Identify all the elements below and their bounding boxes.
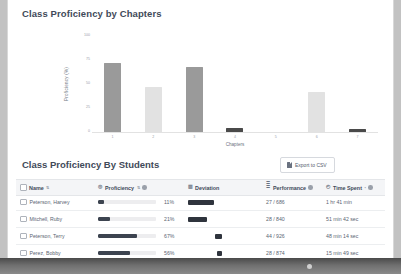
sort-arrow-icon[interactable]: • (364, 186, 365, 190)
sort-arrow-icon[interactable]: ⇅ (46, 186, 49, 190)
y-tick-label: 25 (74, 106, 90, 110)
performance-value: 44 / 926 (266, 228, 285, 244)
select-all-checkbox[interactable] (20, 184, 27, 191)
row-checkbox[interactable] (20, 199, 27, 206)
x-tick-label: 6 (296, 135, 337, 139)
student-name-label: Perez, Bobby (30, 250, 61, 256)
bar-slot (174, 36, 215, 132)
export-to-csv-button[interactable]: Export to CSV (280, 157, 335, 173)
x-axis-label: Chapters (92, 142, 378, 147)
proficiency-track (98, 234, 156, 239)
deviation-track (188, 200, 246, 205)
deviation-bar (215, 234, 222, 239)
column-header-deviation[interactable]: ▥Deviation (188, 180, 219, 195)
export-button-label: Export to CSV (295, 162, 327, 168)
proficiency-percent-label: 67% (164, 228, 186, 244)
column-header-label: Proficiency (105, 185, 134, 191)
x-tick-label: 4 (215, 135, 256, 139)
y-tick-label: 0 (74, 130, 90, 134)
y-axis-label: Proficiency (%) (64, 54, 69, 114)
bar[interactable] (308, 92, 325, 132)
row-checkbox[interactable] (20, 233, 27, 240)
proficiency-percent-label: 11% (164, 194, 186, 210)
list-icon: ≣ (266, 185, 271, 190)
deviation-cell (188, 211, 250, 227)
column-header-proficiency[interactable]: ◎Proficiency⇅ (98, 180, 147, 195)
dashboard-page: Class Proficiency by Chapters Proficienc… (8, 0, 393, 262)
screenshot-root: Class Proficiency by Chapters Proficienc… (0, 0, 401, 274)
y-tick-label: 50 (74, 82, 90, 86)
x-tick-label: 7 (337, 135, 378, 139)
deviation-cell (188, 194, 250, 210)
bar[interactable] (104, 63, 121, 132)
performance-value: 27 / 686 (266, 194, 285, 210)
bar-slot (133, 36, 174, 132)
x-tick-label: 5 (255, 135, 296, 139)
chart-card: Class Proficiency by Chapters Proficienc… (8, 0, 393, 153)
proficiency-fill (98, 200, 104, 205)
deviation-track (188, 234, 246, 239)
row-checkbox[interactable] (20, 216, 27, 223)
bar[interactable] (226, 128, 243, 132)
x-tick-label: 2 (133, 135, 174, 139)
info-icon[interactable] (142, 185, 147, 190)
time-spent-value: 48 min 14 sec (326, 228, 358, 244)
x-tick-label: 1 (92, 135, 133, 139)
table-card: Class Proficiency By Students Export to … (8, 152, 393, 262)
column-header-label: Deviation (195, 185, 219, 191)
x-axis-line (92, 132, 378, 133)
bar-slot (215, 36, 256, 132)
deviation-track (188, 251, 246, 256)
column-header-label: Name (29, 185, 44, 191)
deviation-bar (188, 200, 214, 205)
table-body: Peterson, Harvey11%27 / 6861 hr 41 minMi… (16, 194, 385, 262)
table-row[interactable]: Mitchell, Ruby21%28 / 84051 min 42 sec (16, 211, 385, 228)
column-header-performance[interactable]: ≣Performance (266, 180, 313, 195)
deviation-bar (217, 251, 222, 256)
clock-icon: ◴ (326, 185, 331, 190)
table-row[interactable]: Peterson, Terry67%44 / 92648 min 14 sec (16, 228, 385, 245)
deviation-bar (188, 217, 207, 222)
column-header-name[interactable]: Name⇅ (20, 180, 49, 195)
proficiency-bar-cell (98, 228, 156, 244)
x-tick-label: 3 (174, 135, 215, 139)
time-spent-value: 51 min 42 sec (326, 211, 358, 227)
proficiency-percent-label: 21% (164, 211, 186, 227)
sort-arrow-icon[interactable]: ⇅ (137, 186, 140, 190)
bar-slot (92, 36, 133, 132)
proficiency-bar-cell (98, 211, 156, 227)
bar[interactable] (349, 129, 366, 132)
performance-value: 28 / 840 (266, 211, 285, 227)
target-icon: ◎ (98, 185, 103, 190)
y-tick-label: 75 (74, 58, 90, 62)
proficiency-fill (98, 234, 137, 239)
bar-slot (296, 36, 337, 132)
bar[interactable] (145, 87, 162, 132)
bar-chart: Proficiency (%) 0255075100 1234567 Chapt… (66, 36, 378, 136)
bar[interactable] (186, 67, 203, 132)
bar-slot (337, 36, 378, 132)
proficiency-track (98, 200, 156, 205)
row-checkbox[interactable] (20, 250, 27, 257)
info-icon[interactable] (368, 185, 373, 190)
proficiency-bar-cell (98, 194, 156, 210)
proficiency-track (98, 217, 156, 222)
bar-series (92, 36, 378, 132)
y-tick-label: 100 (74, 34, 90, 38)
deviation-track (188, 217, 246, 222)
file-csv-icon (287, 162, 292, 168)
time-spent-value: 1 hr 41 min (326, 194, 352, 210)
proficiency-track (98, 251, 156, 256)
chart-icon: ▥ (188, 185, 193, 190)
table-title: Class Proficiency By Students (22, 159, 159, 170)
proficiency-fill (98, 251, 130, 256)
table-row[interactable]: Peterson, Harvey11%27 / 6861 hr 41 min (16, 194, 385, 211)
column-header-time-spent[interactable]: ◴Time Spent• (326, 180, 373, 195)
deviation-cell (188, 228, 250, 244)
student-name-label: Peterson, Harvey (30, 199, 70, 205)
bar-slot (255, 36, 296, 132)
info-icon[interactable] (308, 185, 313, 190)
chart-title: Class Proficiency by Chapters (22, 8, 162, 19)
device-indicator-dot (307, 264, 312, 269)
student-name-cell: Peterson, Harvey (20, 194, 70, 210)
